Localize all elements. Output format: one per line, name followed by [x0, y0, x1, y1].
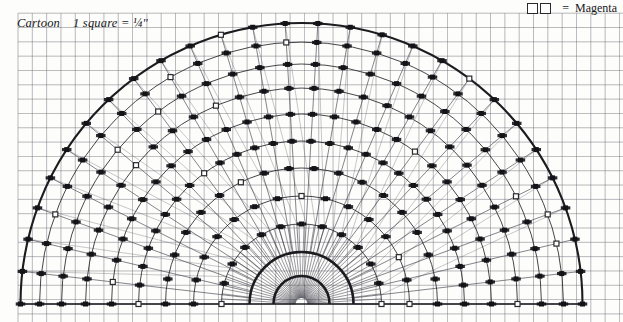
stitch-marker-bar: [475, 237, 485, 240]
stitch-marker-bar: [372, 51, 382, 54]
stitch-marker-bar: [559, 302, 569, 305]
stitch-marker-bar: [500, 229, 510, 232]
stitch-marker-bar: [183, 150, 193, 153]
stitch-marker-bar: [138, 265, 148, 268]
stitch-marker-bar: [287, 140, 297, 143]
stitch-marker-bar: [401, 62, 411, 65]
stitch-marker-bar: [96, 171, 106, 174]
stitch-marker-bar: [450, 247, 460, 250]
stitch-marker-bar: [232, 153, 242, 156]
stitch-marker-open: [515, 302, 520, 307]
stitch-marker-bar: [392, 82, 402, 85]
stitch-marker-bar: [366, 262, 376, 265]
stitch-marker-bar: [57, 302, 67, 305]
stitch-marker-bar: [161, 302, 171, 305]
stitch-marker-bar: [185, 184, 195, 187]
stitch-marker-bar: [321, 197, 331, 200]
stitch-marker-bar: [511, 277, 521, 280]
stitch-marker-bar: [374, 282, 384, 285]
stitch-marker-bar: [497, 171, 507, 174]
stitch-marker-bar: [35, 302, 45, 305]
stitch-marker-bar: [63, 185, 72, 188]
stitch-marker-bar: [177, 95, 187, 98]
stitch-marker-bar: [264, 115, 274, 118]
stitch-marker-bar: [227, 262, 237, 265]
stitch-marker-open: [213, 103, 218, 108]
arc: [222, 224, 382, 304]
stitch-marker-bar: [462, 164, 472, 167]
stitch-marker-bar: [82, 277, 92, 280]
stitch-marker-bar: [16, 302, 26, 305]
stitch-marker-bar: [33, 206, 43, 209]
stitch-marker-bar: [442, 229, 452, 232]
stitch-marker-bar: [283, 63, 293, 66]
stitch-marker-bar: [202, 138, 212, 141]
stitch-marker-bar: [433, 213, 443, 216]
stitch-marker-bar: [440, 110, 450, 113]
stitch-marker-bar: [516, 158, 526, 161]
spoke-diagonal: [86, 123, 253, 239]
stitch-marker-bar: [537, 302, 547, 305]
spoke-outer: [322, 46, 413, 256]
spoke-inner: [289, 225, 301, 298]
stitch-marker-bar: [259, 90, 269, 93]
stitch-marker-bar: [535, 275, 545, 278]
stitch-marker-bar: [338, 66, 348, 69]
stitch-marker-bar: [530, 247, 540, 250]
stitch-marker-bar: [132, 128, 142, 131]
stitch-marker-open: [467, 76, 472, 81]
stitch-marker-bar: [248, 26, 258, 29]
stitch-marker-bar: [144, 247, 154, 250]
stitch-marker-bar: [58, 275, 67, 278]
stitch-marker-bar: [422, 198, 432, 201]
stitch-marker-bar: [242, 120, 252, 123]
stitch-marker-bar: [430, 277, 440, 280]
stitch-marker-bar: [96, 134, 106, 137]
stitch-marker-bar: [161, 213, 171, 216]
caption-label: Cartoon: [17, 16, 60, 30]
stitch-marker-bar: [228, 72, 238, 75]
stitch-marker-bar: [377, 33, 387, 36]
stitch-marker-bar: [62, 148, 71, 151]
stitch-marker-bar: [104, 205, 114, 208]
stitch-marker-open: [202, 171, 207, 176]
stitch-marker-bar: [273, 197, 283, 200]
stitch-marker-bar: [78, 158, 88, 161]
stitch-marker-bar: [251, 44, 261, 47]
stitch-marker-open: [238, 180, 243, 185]
stitch-marker-bar: [344, 205, 354, 208]
stitch-marker-bar: [325, 142, 335, 145]
stitch-marker-bar: [140, 92, 150, 95]
stitch-marker-bar: [578, 302, 588, 305]
stitch-marker-bar: [442, 180, 452, 183]
stitch-marker-bar: [63, 247, 73, 250]
stitch-marker-open: [299, 194, 304, 199]
spoke-inner: [252, 241, 298, 299]
stitch-marker-bar: [408, 44, 418, 47]
stitch-marker-bar: [372, 128, 382, 131]
stitch-marker-bar: [215, 194, 225, 197]
stitch-marker-bar: [346, 26, 356, 29]
stitch-marker-open: [396, 255, 401, 260]
stitch-marker-bar: [219, 282, 229, 285]
stitch-marker-bar: [185, 44, 195, 47]
stitch-marker-bar: [229, 218, 239, 221]
stitch-marker-open: [407, 302, 412, 307]
stitch-marker-open: [412, 149, 417, 154]
stitch-marker-bar: [135, 283, 145, 286]
stitch-marker-bar: [412, 231, 422, 234]
arc: [166, 168, 438, 304]
stitch-marker-bar: [107, 302, 117, 305]
stitch-marker-bar: [286, 113, 296, 116]
spoke-diagonal: [109, 100, 262, 235]
stitch-marker-bar: [481, 148, 491, 151]
open-square-icon: [540, 3, 551, 14]
stitch-marker-bar: [428, 76, 438, 79]
spoke-diagonal: [363, 79, 470, 253]
arc: [194, 196, 410, 304]
stitch-marker-bar: [357, 181, 367, 184]
graph-paper-grid: [18, 13, 623, 322]
stitch-marker-bar: [381, 235, 391, 238]
stitch-marker-bar: [330, 115, 340, 118]
legend-label-magenta: Magenta: [575, 2, 617, 14]
